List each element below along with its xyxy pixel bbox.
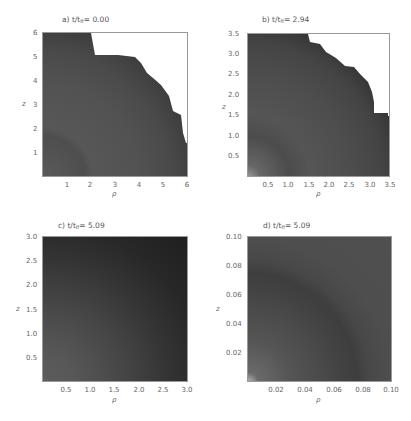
x-tick: 4 xyxy=(137,181,141,189)
y-tick: 0.5 xyxy=(228,152,239,160)
y-axis-label: z xyxy=(22,100,26,108)
y-tick: 1.0 xyxy=(228,132,239,140)
y-tick: 3.5 xyxy=(228,30,239,38)
panel-a-title: a) t/tff= 0.00 xyxy=(62,15,109,24)
x-tick: 2.0 xyxy=(323,181,334,189)
x-tick: 0.10 xyxy=(383,386,399,394)
x-tick: 2 xyxy=(88,181,92,189)
x-tick: 3 xyxy=(113,181,117,189)
panel-c-plot xyxy=(42,236,188,382)
panel-b-plot xyxy=(247,33,390,177)
x-tick: 3.0 xyxy=(181,386,192,394)
x-tick: 2.5 xyxy=(157,386,168,394)
x-tick: 1.5 xyxy=(303,181,314,189)
x-axis-label: ρ xyxy=(112,190,116,198)
y-tick: 0.08 xyxy=(226,262,242,270)
y-tick: 2.0 xyxy=(228,91,239,99)
x-tick: 0.08 xyxy=(355,386,371,394)
x-tick: 1 xyxy=(65,181,69,189)
x-tick: 0.5 xyxy=(60,386,71,394)
y-tick: 0.02 xyxy=(226,349,242,357)
panel-a-plot xyxy=(42,32,188,177)
y-tick: 3 xyxy=(33,101,37,109)
x-tick: 2.0 xyxy=(133,386,144,394)
y-tick: 5 xyxy=(33,53,37,61)
x-tick: 1.0 xyxy=(84,386,95,394)
x-tick: 3.5 xyxy=(384,181,395,189)
y-tick: 0.5 xyxy=(26,354,37,362)
y-tick: 6 xyxy=(33,29,37,37)
panel-d-plot xyxy=(247,236,392,382)
x-tick: 6 xyxy=(185,181,189,189)
x-tick: 0.5 xyxy=(262,181,273,189)
y-tick: 0.10 xyxy=(226,233,242,241)
y-tick: 1.0 xyxy=(26,330,37,338)
y-tick: 1.5 xyxy=(228,111,239,119)
y-tick: 2.5 xyxy=(26,257,37,265)
y-axis-label: z xyxy=(222,103,226,111)
y-tick: 0.06 xyxy=(226,291,242,299)
x-tick: 0.04 xyxy=(297,386,313,394)
x-axis-label: ρ xyxy=(112,396,116,404)
y-axis-label: z xyxy=(16,305,20,313)
y-tick: 3.0 xyxy=(228,50,239,58)
y-tick: 2.0 xyxy=(26,281,37,289)
y-tick: 3.0 xyxy=(26,233,37,241)
x-tick: 5 xyxy=(161,181,165,189)
y-tick: 1.5 xyxy=(26,306,37,314)
y-tick: 1 xyxy=(33,149,37,157)
x-tick: 2.5 xyxy=(343,181,354,189)
y-axis-label: z xyxy=(216,305,220,313)
y-tick: 2.5 xyxy=(228,70,239,78)
x-tick: 0.02 xyxy=(268,386,284,394)
panel-c-title: c) t/tff= 5.09 xyxy=(58,221,105,230)
x-axis-label: ρ xyxy=(316,190,320,198)
x-axis-label: ρ xyxy=(316,396,320,404)
panel-d-title: d) t/tff= 5.09 xyxy=(263,221,310,230)
x-tick: 1.5 xyxy=(108,386,119,394)
y-tick: 2 xyxy=(33,125,37,133)
x-tick: 0.06 xyxy=(326,386,342,394)
y-tick: 4 xyxy=(33,77,37,85)
x-tick: 3.0 xyxy=(364,181,375,189)
y-tick: 0.04 xyxy=(226,320,242,328)
x-tick: 1.0 xyxy=(282,181,293,189)
panel-b-title: b) t/tff= 2.94 xyxy=(262,15,309,24)
